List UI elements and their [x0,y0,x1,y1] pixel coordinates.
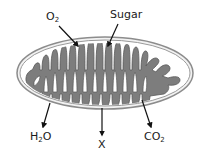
h2o-arrow [43,103,50,127]
h2o-label: H2O [30,131,51,144]
sugar-label: Sugar [110,9,142,20]
co2-label: CO2 [144,131,165,144]
o2-label: O2 [46,11,59,24]
x-label: X [98,139,106,150]
